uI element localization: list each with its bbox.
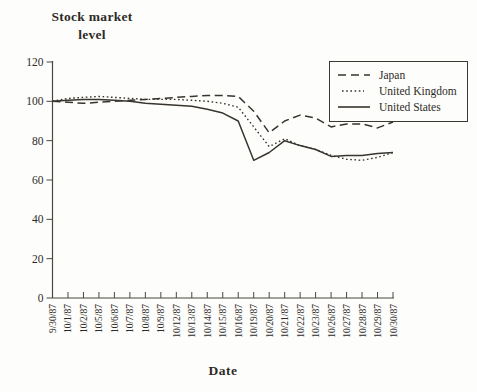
y-tick-label: 40 <box>32 213 44 225</box>
legend-item-japan: Japan <box>338 67 459 83</box>
figure: Stock market level 0204060801001209/30/8… <box>0 0 477 392</box>
x-tick-label: 10/27/87 <box>342 304 352 338</box>
solid-line-icon <box>338 102 370 112</box>
x-tick-label: 10/29/87 <box>373 304 383 338</box>
x-tick-label: 10/26/87 <box>327 304 337 338</box>
x-tick-label: 10/15/87 <box>218 304 228 338</box>
y-tick-label: 0 <box>38 292 44 304</box>
x-tick-label: 10/14/87 <box>203 304 213 338</box>
x-tick-label: 10/28/87 <box>358 304 368 338</box>
dotted-line-icon <box>338 86 370 96</box>
x-tick-label: 10/5/87 <box>94 304 104 333</box>
x-tick-label: 10/9/87 <box>156 304 166 333</box>
x-tick-label: 10/8/87 <box>141 304 151 333</box>
y-tick-label: 80 <box>32 135 44 147</box>
x-tick-label: 10/23/87 <box>311 304 321 338</box>
legend-label: United States <box>379 101 441 113</box>
y-tick-label: 100 <box>26 95 44 107</box>
x-tick-label: 10/19/87 <box>249 304 259 338</box>
x-tick-label: 10/30/87 <box>389 304 399 338</box>
legend-label: United Kingdom <box>379 85 457 97</box>
legend-label: Japan <box>379 69 405 81</box>
legend: Japan United Kingdom United States <box>329 61 468 122</box>
y-tick-label: 20 <box>32 253 44 265</box>
x-tick-label: 9/30/87 <box>48 304 58 333</box>
legend-item-united-states: United States <box>338 99 459 115</box>
x-tick-label: 10/7/87 <box>125 304 135 333</box>
x-tick-label: 10/13/87 <box>187 304 197 338</box>
y-tick-label: 60 <box>32 174 44 186</box>
x-tick-label: 10/22/87 <box>296 304 306 338</box>
legend-item-united-kingdom: United Kingdom <box>338 83 459 99</box>
y-tick-label: 120 <box>26 56 44 68</box>
dashed-line-icon <box>338 70 370 80</box>
x-tick-label: 10/6/87 <box>110 304 120 333</box>
x-tick-label: 10/1/87 <box>63 304 73 333</box>
x-tick-label: 10/2/87 <box>79 304 89 333</box>
x-axis-title: Date <box>163 363 283 379</box>
x-tick-label: 10/20/87 <box>265 304 275 338</box>
x-tick-label: 10/21/87 <box>280 304 290 338</box>
x-tick-label: 10/16/87 <box>234 304 244 338</box>
chart-plot-area: 0204060801001209/30/8710/1/8710/2/8710/5… <box>0 0 477 392</box>
x-tick-label: 10/12/87 <box>172 304 182 338</box>
